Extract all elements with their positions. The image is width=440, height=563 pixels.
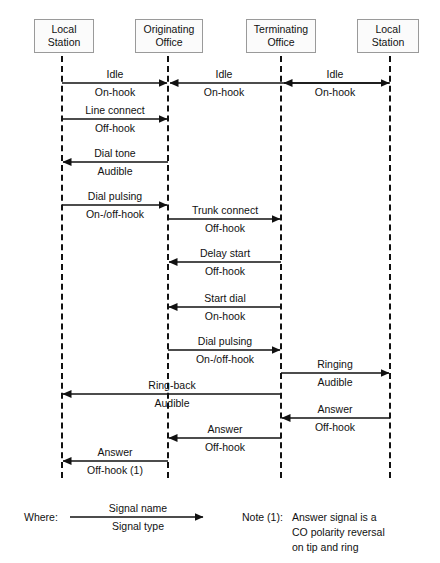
sequence-diagram: Local Station Originating Office Termina…: [0, 0, 440, 563]
msg-name-answer-1: Answer: [309, 403, 361, 415]
msg-name-trunk-connect: Trunk connect: [186, 204, 264, 216]
legend-signal-type: Signal type: [98, 520, 178, 532]
msg-name-start-dial: Start dial: [195, 292, 255, 304]
msg-name-line-connect: Line connect: [80, 104, 150, 116]
note-line-1: Answer signal is a: [292, 510, 377, 524]
msg-type-start-dial: On-hook: [195, 310, 255, 322]
msg-type-line-connect: Off-hook: [85, 122, 145, 134]
msg-type-dial-pulsing-1: On-/off-hook: [76, 208, 154, 220]
msg-name-dial-tone: Dial tone: [85, 147, 145, 159]
msg-name-ring-back: Ring-back: [141, 379, 203, 391]
msg-type-dial-tone: Audible: [88, 165, 142, 177]
msg-type-trunk-connect: Off-hook: [195, 222, 255, 234]
msg-name-answer-2: Answer: [199, 423, 251, 435]
msg-type-ringing: Audible: [308, 376, 362, 388]
msg-type-answer-2: Off-hook: [196, 441, 254, 453]
msg-type-dial-pulsing-2: On-/off-hook: [186, 353, 264, 365]
msg-type-ring-back: Audible: [145, 397, 199, 409]
msg-name-idle-1: Idle: [90, 68, 140, 80]
msg-name-dial-pulsing-1: Dial pulsing: [80, 190, 150, 202]
msg-name-dial-pulsing-2: Dial pulsing: [189, 335, 261, 347]
legend-signal-name: Signal name: [98, 502, 178, 514]
note-label: Note (1):: [242, 510, 283, 524]
legend-where-label: Where:: [24, 510, 58, 524]
msg-name-delay-start: Delay start: [192, 247, 258, 259]
msg-name-answer-3: Answer: [89, 446, 141, 458]
msg-type-idle-2: On-hook: [194, 86, 254, 98]
msg-name-idle-3: Idle: [310, 68, 360, 80]
msg-type-idle-3: On-hook: [305, 86, 365, 98]
note-line-3: on tip and ring: [292, 540, 359, 554]
msg-type-idle-1: On-hook: [85, 86, 145, 98]
note-line-2: CO polarity reversal: [292, 525, 385, 539]
msg-type-delay-start: Off-hook: [195, 265, 255, 277]
msg-type-answer-3: Off-hook (1): [80, 464, 150, 476]
msg-type-answer-1: Off-hook: [306, 421, 364, 433]
msg-name-idle-2: Idle: [199, 68, 249, 80]
message-arrows: [0, 0, 440, 563]
msg-name-ringing: Ringing: [307, 358, 363, 370]
